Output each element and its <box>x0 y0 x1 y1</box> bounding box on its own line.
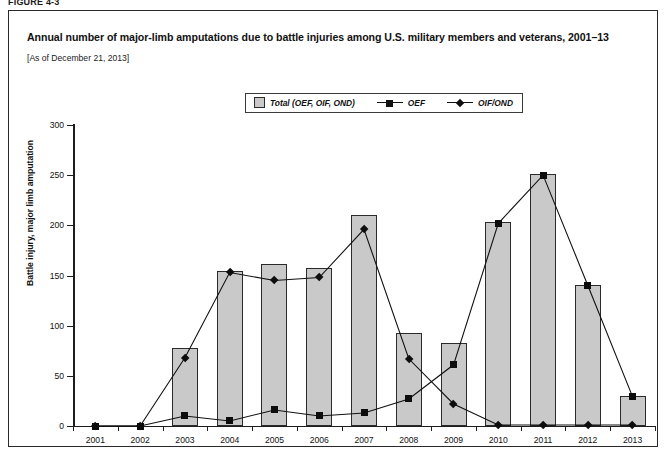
x-axis-tick-label: 2004 <box>220 435 239 445</box>
marker-oef-2012 <box>584 282 591 289</box>
x-axis-tick-label: 2008 <box>399 435 418 445</box>
chart-legend: Total (OEF, OIF, OND) OEF OIF/OND <box>245 93 523 113</box>
x-axis-tick <box>476 426 477 431</box>
marker-oef-2007 <box>361 409 368 416</box>
x-axis-tick <box>73 426 74 431</box>
marker-oef-2005 <box>271 406 278 413</box>
x-axis-tick <box>655 426 656 431</box>
marker-oef-2008 <box>405 395 412 402</box>
x-axis-tick-label: 2005 <box>265 435 284 445</box>
x-axis-tick-label: 2003 <box>175 435 194 445</box>
legend-item-oif-ond: OIF/OND <box>447 98 513 108</box>
y-axis-tick-label: 100 <box>50 321 64 331</box>
x-axis-tick-label: 2007 <box>354 435 373 445</box>
x-axis-tick <box>521 426 522 431</box>
marker-oef-2004 <box>226 417 233 424</box>
legend-item-total: Total (OEF, OIF, OND) <box>254 97 355 108</box>
y-axis-tick-label: 0 <box>59 421 64 431</box>
y-axis-tick-label: 150 <box>50 271 64 281</box>
marker-oef-2011 <box>540 172 547 179</box>
legend-item-oef: OEF <box>377 98 425 108</box>
x-axis-tick-label: 2011 <box>534 435 552 445</box>
y-axis-tick-label: 200 <box>50 220 64 230</box>
x-axis-tick-label: 2009 <box>444 435 463 445</box>
legend-label-oef: OEF <box>408 98 425 108</box>
marker-oef-2003 <box>181 412 188 419</box>
line-series-layer <box>73 125 655 426</box>
marker-oef-2010 <box>495 220 502 227</box>
x-axis-tick <box>163 426 164 431</box>
legend-label-oif-ond: OIF/OND <box>478 98 513 108</box>
x-axis-tick <box>342 426 343 431</box>
square-line-icon <box>377 98 403 107</box>
legend-label-total: Total (OEF, OIF, OND) <box>270 98 355 108</box>
x-axis-tick-label: 2002 <box>131 435 150 445</box>
figure-subtitle: [As of December 21, 2013] <box>27 53 129 63</box>
x-axis-tick <box>252 426 253 431</box>
y-axis-tick-label: 300 <box>50 120 64 130</box>
x-axis-tick-label: 2010 <box>489 435 508 445</box>
figure-label: FIGURE 4-3 <box>8 0 60 7</box>
y-axis-title: Battle injury, major limb amputation <box>25 140 35 286</box>
y-axis-tick-label: 50 <box>54 371 64 381</box>
x-axis-tick <box>431 426 432 431</box>
x-axis-tick-label: 2012 <box>578 435 597 445</box>
page-title: Annual number of major-limb amputations … <box>27 31 609 43</box>
x-axis-tick-label: 2013 <box>623 435 642 445</box>
y-axis-tick-label: 250 <box>50 170 64 180</box>
marker-oef-2006 <box>316 412 323 419</box>
plot-area: 0501001502002503002001200220032004200520… <box>73 125 655 426</box>
x-axis-tick <box>386 426 387 431</box>
marker-oef-2013 <box>629 393 636 400</box>
x-axis-tick-label: 2006 <box>310 435 329 445</box>
line-oifond <box>95 229 632 426</box>
line-oef <box>95 175 632 426</box>
x-axis-tick <box>207 426 208 431</box>
bar-swatch-icon <box>254 97 265 108</box>
x-axis-tick <box>610 426 611 431</box>
x-axis-tick <box>565 426 566 431</box>
marker-oef-2009 <box>450 361 457 368</box>
x-axis-tick <box>297 426 298 431</box>
x-axis-tick-label: 2001 <box>86 435 105 445</box>
diamond-line-icon <box>447 98 473 107</box>
x-axis-tick <box>118 426 119 431</box>
